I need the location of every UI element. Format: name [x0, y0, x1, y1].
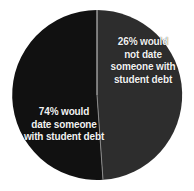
label-line-3: someone with [99, 61, 187, 74]
pie-slice-would-date [12, 10, 103, 180]
label-line-4: student debt [99, 74, 187, 87]
label-line-3: with student debt [10, 131, 118, 144]
pie-slice-label-would-date: 74% would date someone with student debt [10, 106, 118, 144]
label-line-1: 26% would [99, 36, 187, 49]
pie-chart-graphic [0, 0, 194, 191]
pie-chart: 26% would not date someone with student … [0, 0, 194, 191]
label-line-1: 74% would [10, 106, 118, 119]
label-line-2: not date [99, 49, 187, 62]
pie-slice-label-would-not-date: 26% would not date someone with student … [99, 36, 187, 86]
label-line-2: date someone [10, 119, 118, 132]
